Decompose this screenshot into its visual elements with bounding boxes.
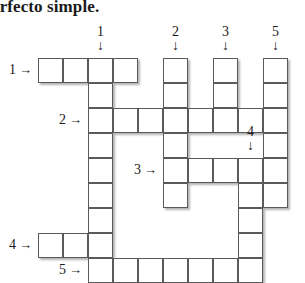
crossword-cell[interactable] <box>138 258 163 283</box>
crossword-cell[interactable] <box>188 158 213 183</box>
crossword-cell[interactable] <box>163 83 188 108</box>
clue-marker-4-across: 4→ <box>9 237 32 253</box>
clue-marker-5-down: 5↓ <box>268 25 284 52</box>
crossword-cell[interactable] <box>213 158 238 183</box>
crossword-cell[interactable] <box>163 183 188 208</box>
clue-marker-3-down: 3↓ <box>218 25 234 52</box>
crossword-cell[interactable] <box>88 208 113 233</box>
crossword-cell[interactable] <box>38 233 63 258</box>
crossword-cell[interactable] <box>163 158 188 183</box>
crossword-cell[interactable] <box>88 108 113 133</box>
arrow-right-icon: → <box>69 262 82 278</box>
clue-number: 3 <box>218 25 234 39</box>
crossword-cell[interactable] <box>213 83 238 108</box>
arrow-right-icon: → <box>69 112 82 128</box>
clue-number: 2 <box>59 112 66 128</box>
clue-number: 4 <box>9 237 16 253</box>
crossword-cell[interactable] <box>213 108 238 133</box>
crossword-cell[interactable] <box>263 108 288 133</box>
clue-number: 4 <box>243 125 259 139</box>
crossword-cell[interactable] <box>113 258 138 283</box>
crossword-cell[interactable] <box>238 258 263 283</box>
clue-marker-4-down: 4↓ <box>243 125 259 152</box>
arrow-down-icon: ↓ <box>218 39 234 52</box>
clue-number: 5 <box>268 25 284 39</box>
clue-marker-1-across: 1→ <box>9 62 32 78</box>
crossword-cell[interactable] <box>88 133 113 158</box>
clue-number: 2 <box>168 25 184 39</box>
crossword-cell[interactable] <box>163 108 188 133</box>
arrow-right-icon: → <box>144 162 157 178</box>
clue-number: 5 <box>59 262 66 278</box>
crossword-cell[interactable] <box>188 258 213 283</box>
arrow-right-icon: → <box>19 62 32 78</box>
crossword-cell[interactable] <box>238 183 263 208</box>
clue-marker-2-down: 2↓ <box>168 25 184 52</box>
crossword-cell[interactable] <box>163 258 188 283</box>
crossword-cell[interactable] <box>38 58 63 83</box>
arrow-down-icon: ↓ <box>268 39 284 52</box>
crossword-cell[interactable] <box>238 233 263 258</box>
arrow-down-icon: ↓ <box>243 139 259 152</box>
clue-marker-2-across: 2→ <box>59 112 82 128</box>
arrow-down-icon: ↓ <box>93 39 109 52</box>
crossword-cell[interactable] <box>263 133 288 158</box>
crossword-cell[interactable] <box>63 58 88 83</box>
crossword-cell[interactable] <box>113 108 138 133</box>
crossword-cell[interactable] <box>213 58 238 83</box>
crossword-cell[interactable] <box>138 108 163 133</box>
crossword-cell[interactable] <box>88 83 113 108</box>
crossword-cell[interactable] <box>88 258 113 283</box>
crossword-cell[interactable] <box>238 208 263 233</box>
crossword-cell[interactable] <box>113 58 138 83</box>
crossword-cell[interactable] <box>263 83 288 108</box>
arrow-right-icon: → <box>19 237 32 253</box>
clue-marker-1-down: 1↓ <box>93 25 109 52</box>
clue-number: 1 <box>93 25 109 39</box>
crossword-cell[interactable] <box>88 233 113 258</box>
crossword-cell[interactable] <box>88 158 113 183</box>
crossword-cell[interactable] <box>263 183 288 208</box>
crossword-cell[interactable] <box>263 58 288 83</box>
crossword-cell[interactable] <box>163 58 188 83</box>
clue-number: 1 <box>9 62 16 78</box>
crossword-cell[interactable] <box>188 108 213 133</box>
crossword-cell[interactable] <box>63 233 88 258</box>
crossword-cell[interactable] <box>163 133 188 158</box>
clue-marker-3-across: 3→ <box>134 162 157 178</box>
crossword-cell[interactable] <box>238 158 263 183</box>
crossword-cell[interactable] <box>88 183 113 208</box>
arrow-down-icon: ↓ <box>168 39 184 52</box>
crossword-cell[interactable] <box>88 58 113 83</box>
clue-marker-5-across: 5→ <box>59 262 82 278</box>
clue-number: 3 <box>134 162 141 178</box>
crossword-cell[interactable] <box>213 258 238 283</box>
crossword-cell[interactable] <box>263 158 288 183</box>
